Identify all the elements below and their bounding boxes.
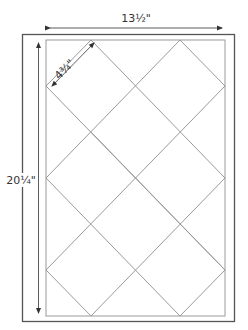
block-label: 4¾" xyxy=(52,57,77,82)
block-dimension: 4¾" xyxy=(52,43,94,86)
width-dimension: 13½" xyxy=(50,12,222,28)
diamond-grid xyxy=(46,40,225,316)
height-label: 20¼" xyxy=(6,174,36,187)
width-label: 13½" xyxy=(121,12,151,25)
quilt-diagram: 13½" 20¼" 4¾" xyxy=(0,0,248,330)
